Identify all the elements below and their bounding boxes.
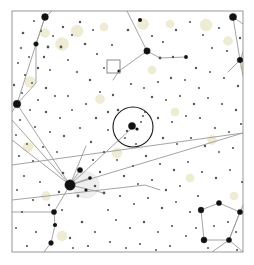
- star-marker: [95, 117, 97, 119]
- open-cluster-marker: [100, 23, 108, 31]
- target-star-marker: [128, 122, 135, 129]
- star-marker: [139, 243, 141, 245]
- star-marker: [37, 99, 39, 101]
- star-marker: [87, 245, 89, 247]
- star-marker: [54, 95, 56, 97]
- star-marker: [116, 159, 118, 161]
- star-marker: [211, 47, 213, 49]
- star-marker: [62, 172, 65, 175]
- star-marker: [84, 43, 87, 46]
- star-marker: [190, 137, 192, 139]
- star-marker: [79, 127, 81, 129]
- star-marker: [42, 14, 49, 21]
- star-marker: [201, 171, 203, 173]
- target-star-marker: [135, 127, 138, 130]
- star-marker: [21, 211, 23, 213]
- star-marker: [49, 69, 51, 71]
- star-marker: [107, 129, 109, 131]
- star-marker: [213, 225, 215, 227]
- star-marker: [165, 189, 167, 191]
- star-marker: [187, 161, 189, 163]
- star-marker: [67, 95, 69, 97]
- star-marker: [88, 176, 92, 180]
- star-marker: [235, 231, 237, 233]
- star-marker: [127, 29, 130, 32]
- star-marker: [15, 134, 17, 136]
- star-marker: [72, 247, 74, 249]
- star-marker: [214, 127, 216, 129]
- star-marker: [125, 247, 127, 249]
- star-marker: [172, 56, 174, 58]
- open-cluster-marker: [224, 37, 233, 46]
- star-marker: [62, 26, 64, 28]
- star-marker: [226, 50, 228, 52]
- star-marker: [35, 231, 37, 233]
- star-marker: [227, 221, 229, 223]
- star-marker: [22, 32, 25, 35]
- star-marker: [235, 109, 237, 111]
- star-marker: [32, 199, 34, 201]
- star-marker: [45, 111, 47, 113]
- star-marker: [53, 223, 57, 227]
- star-marker: [241, 181, 243, 183]
- star-marker: [240, 123, 242, 125]
- star-marker: [42, 146, 44, 148]
- star-marker: [123, 175, 125, 177]
- star-marker: [103, 67, 105, 69]
- star-marker: [215, 177, 217, 179]
- open-cluster-marker: [166, 20, 174, 28]
- star-marker: [77, 195, 80, 198]
- star-marker: [201, 237, 207, 243]
- star-marker: [132, 165, 134, 167]
- star-marker: [29, 109, 31, 111]
- star-marker: [99, 91, 101, 93]
- star-marker: [65, 180, 75, 190]
- star-marker: [89, 79, 91, 81]
- star-marker: [115, 219, 117, 221]
- star-marker: [107, 209, 109, 211]
- star-chart-canvas: [0, 0, 254, 265]
- open-cluster-marker: [171, 108, 179, 116]
- star-marker: [239, 37, 241, 39]
- star-marker: [15, 227, 17, 229]
- star-marker: [229, 13, 236, 20]
- star-marker: [16, 189, 18, 191]
- star-marker: [175, 201, 177, 203]
- star-marker: [18, 155, 20, 157]
- star-marker: [165, 99, 167, 101]
- star-marker: [209, 71, 211, 73]
- star-marker: [221, 103, 223, 105]
- star-marker: [112, 94, 114, 96]
- star-marker: [26, 245, 28, 247]
- star-marker: [169, 245, 171, 247]
- star-chart-figure: [0, 0, 254, 265]
- star-marker: [135, 143, 137, 145]
- star-marker: [34, 42, 39, 47]
- star-marker: [223, 77, 225, 79]
- star-marker: [34, 126, 36, 128]
- star-marker: [171, 121, 173, 123]
- star-marker: [159, 57, 162, 60]
- star-marker: [40, 30, 42, 32]
- open-cluster-marker: [57, 231, 67, 241]
- star-marker: [195, 227, 197, 229]
- star-marker: [92, 159, 94, 161]
- star-marker: [81, 221, 84, 224]
- star-marker: [48, 204, 50, 206]
- star-marker: [173, 169, 175, 171]
- star-marker: [237, 57, 243, 63]
- star-marker: [151, 35, 153, 37]
- star-marker: [133, 203, 135, 205]
- star-marker: [71, 34, 73, 36]
- star-marker: [32, 160, 34, 162]
- star-marker: [56, 151, 58, 153]
- star-marker: [162, 41, 164, 43]
- star-marker: [142, 115, 144, 117]
- star-marker: [197, 195, 199, 197]
- open-cluster-marker: [96, 95, 105, 104]
- star-marker: [111, 44, 113, 46]
- star-marker: [94, 231, 96, 233]
- star-marker: [84, 188, 87, 191]
- star-marker: [117, 109, 120, 112]
- star-marker: [119, 195, 121, 197]
